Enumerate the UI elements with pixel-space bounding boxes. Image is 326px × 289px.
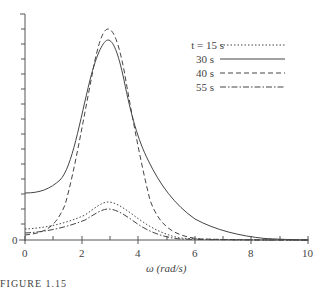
legend-label-55s: 55 s [196, 81, 214, 93]
series-30s-line [25, 40, 308, 240]
x-tick-8: 8 [248, 247, 254, 259]
x-tick-4: 4 [135, 247, 141, 259]
y-axis [19, 14, 25, 241]
x-tick-2: 2 [79, 247, 85, 259]
x-tick-10: 10 [302, 247, 314, 259]
series-55s-line [25, 209, 308, 240]
x-tick-0: 0 [22, 247, 28, 259]
series-15s-line [25, 202, 308, 240]
figure-caption: FIGURE 1.15 [0, 278, 67, 289]
legend: t = 15 s 30 s 40 s 55 s [191, 39, 285, 93]
y-tick-0: 0 [12, 234, 18, 246]
x-tick-6: 6 [192, 247, 198, 259]
series-40s-line [25, 29, 308, 240]
legend-label-40s: 40 s [196, 67, 214, 79]
x-axis-label: ω (rad/s) [146, 262, 187, 275]
legend-label-30s: 30 s [196, 53, 214, 65]
legend-label-15s: t = 15 s [191, 39, 224, 51]
